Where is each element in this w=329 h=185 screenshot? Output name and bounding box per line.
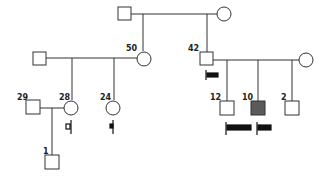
label-g3-daughter-b: 24 bbox=[100, 93, 112, 102]
g2-son-square bbox=[200, 52, 213, 65]
g3-son-b-marker-bar bbox=[258, 125, 271, 130]
pedigree-chart: 50 42 29 28 24 12 10 2 1 bbox=[0, 0, 329, 185]
label-g4-son: 1 bbox=[43, 147, 49, 156]
label-g2-son: 42 bbox=[188, 44, 199, 53]
g3-son-b-square-affected bbox=[251, 101, 265, 115]
label-g2-daughter: 50 bbox=[126, 44, 138, 53]
g2-daughter-circle bbox=[137, 52, 151, 66]
g1-father-square bbox=[118, 7, 131, 20]
g3-daughter-b-marker-bar bbox=[110, 124, 113, 128]
g2-son-marker-bar bbox=[207, 73, 218, 77]
g3-daughter-b-circle bbox=[106, 101, 120, 115]
label-g3-son-c: 2 bbox=[281, 93, 287, 102]
g3-daughter-a-circle bbox=[64, 101, 78, 115]
g2-spouse-left-square bbox=[33, 52, 46, 65]
g3-son-a-marker-bar bbox=[227, 125, 251, 130]
g1-mother-circle bbox=[217, 7, 231, 21]
g4-son-square bbox=[45, 155, 59, 169]
g2-spouse-right-circle bbox=[299, 53, 313, 67]
label-g3-husband: 29 bbox=[17, 93, 29, 102]
label-g3-son-b: 10 bbox=[242, 93, 254, 102]
g3-husband-square bbox=[26, 100, 40, 114]
label-g3-son-a: 12 bbox=[210, 93, 221, 102]
g3-son-c-square bbox=[285, 101, 299, 115]
g3-son-a-square bbox=[220, 101, 234, 115]
label-g3-daughter-a: 28 bbox=[59, 93, 71, 102]
g3-daughter-a-marker-bar bbox=[66, 124, 70, 129]
